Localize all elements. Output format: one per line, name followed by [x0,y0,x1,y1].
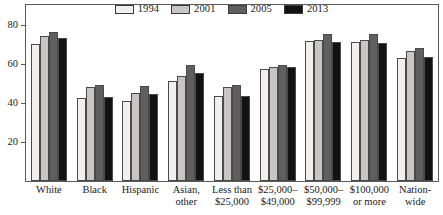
y-axis-tick-mark [21,142,25,143]
bar [232,85,241,181]
x-axis-tick-label-line: wide [392,196,438,208]
bar-group [397,5,433,181]
bar-group [31,5,67,181]
x-axis-tick-label-line: Hispanic [118,184,164,196]
x-axis-tick-label-line: Nation- [392,184,438,196]
bar [269,67,278,181]
bar-group [122,5,158,181]
bar [31,44,40,181]
x-axis-tick-label: Less than$25,000 [209,184,255,208]
bar [351,42,360,181]
bar [104,97,113,181]
bar [305,41,314,181]
x-axis-tick-label-line: White [26,184,72,196]
bar [223,87,232,181]
bar-group [260,5,296,181]
bar [424,57,433,181]
bar [323,34,332,181]
bar [149,94,158,181]
x-axis-tick-label-line: Asian, [163,184,209,196]
y-axis-tick-label: 20 [8,137,19,148]
bars-layer [26,5,438,181]
bar [122,101,131,181]
bar-group [168,5,204,181]
x-axis-tick-label: Nation-wide [392,184,438,208]
bar [406,51,415,181]
x-axis-tick-label-line: $100,000 [346,184,392,196]
y-axis-tick-mark [21,64,25,65]
bar [369,34,378,181]
bar [397,58,406,181]
bar [260,69,269,181]
chart-figure: 20406080 1994200120052013 WhiteBlackHisp… [0,0,443,215]
x-axis-tick-label-line: $49,000 [255,196,301,208]
bar [131,93,140,181]
bar [415,48,424,181]
bar [86,87,95,181]
bar [77,98,86,181]
y-axis-tick-label: 40 [8,98,19,109]
x-axis: WhiteBlackHispanicAsian,otherLess than$2… [26,184,438,215]
bar [49,32,58,181]
x-axis-tick-label: $100,000or more [346,184,392,208]
bar [332,42,341,181]
bar [58,38,67,181]
x-axis-tick-label: White [26,184,72,196]
bar-group [77,5,113,181]
bar [168,81,177,181]
x-axis-tick-label-line: $25,000 [209,196,255,208]
y-axis-tick-mark [21,103,25,104]
y-axis-tick-label: 60 [8,58,19,69]
bar [140,86,149,181]
x-axis-tick-label: Black [72,184,118,196]
bar-group [351,5,387,181]
bar [241,96,250,181]
bar [360,40,369,181]
bar [378,43,387,181]
x-axis-tick-label-line: or more [346,196,392,208]
bar [314,40,323,181]
bar [40,36,49,181]
bar-group [214,5,250,181]
bar [214,96,223,181]
y-axis: 20406080 [0,0,25,215]
bar [177,76,186,181]
y-axis-tick-mark [21,25,25,26]
x-axis-tick-label: Asian,other [163,184,209,208]
bar [186,65,195,181]
bar [95,85,104,181]
x-axis-tick-label-line: Black [72,184,118,196]
x-axis-tick-label-line: Less than [209,184,255,196]
x-axis-tick-label-line: $99,999 [301,196,347,208]
bar [195,73,204,181]
x-axis-tick-label-line: $25,000– [255,184,301,196]
y-axis-tick-label: 80 [8,19,19,30]
x-axis-tick-label: $25,000–$49,000 [255,184,301,208]
bar [287,67,296,181]
bar-group [305,5,341,181]
x-axis-tick-label: $50,000–$99,999 [301,184,347,208]
x-axis-tick-label-line: other [163,196,209,208]
x-axis-tick-label-line: $50,000– [301,184,347,196]
x-axis-tick-label: Hispanic [118,184,164,196]
bar [278,65,287,181]
